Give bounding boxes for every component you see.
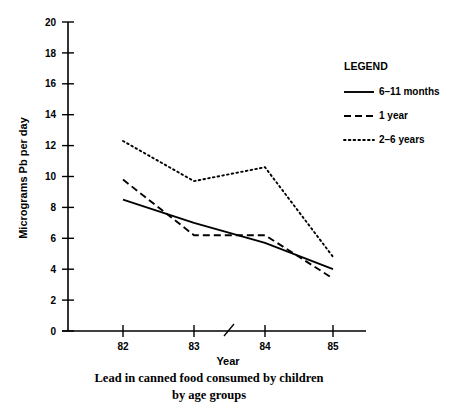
y-tick-label: 0 <box>50 326 56 337</box>
legend-title: LEGEND <box>344 60 388 72</box>
y-axis-tick-labels: 02468101214161820 <box>45 17 57 337</box>
legend-label: 6–11 months <box>379 86 440 97</box>
data-series-group <box>123 141 333 279</box>
y-tick-label: 12 <box>45 140 57 151</box>
x-tick-label: 82 <box>117 341 129 352</box>
series-line-dotted <box>123 141 333 257</box>
chart-legend: LEGEND 6–11 months1 year2–6 years <box>344 60 440 145</box>
x-axis-title: Year <box>216 355 240 367</box>
y-tick-label: 2 <box>50 295 56 306</box>
y-tick-label: 4 <box>50 264 56 275</box>
legend-label: 2–6 years <box>379 134 425 145</box>
x-axis-break-mark <box>224 324 234 336</box>
x-tick-label: 84 <box>259 341 271 352</box>
y-tick-label: 18 <box>45 48 57 59</box>
y-tick-label: 6 <box>50 233 56 244</box>
y-axis-title: Micrograms Pb per day <box>17 116 29 239</box>
figure-caption-line-1: Lead in canned food consumed by children <box>95 371 324 385</box>
x-tick-label: 85 <box>327 341 339 352</box>
y-tick-label: 16 <box>45 78 57 89</box>
y-tick-label: 10 <box>45 171 57 182</box>
x-tick-label: 83 <box>188 341 200 352</box>
y-tick-label: 8 <box>50 202 56 213</box>
legend-label: 1 year <box>379 110 408 121</box>
figure-caption-line-2: by age groups <box>172 388 246 402</box>
chart-figure: 02468101214161820 82838485 Micrograms Pb… <box>0 0 450 411</box>
line-chart-canvas: 02468101214161820 82838485 Micrograms Pb… <box>0 0 450 411</box>
y-tick-label: 20 <box>45 17 57 28</box>
series-line-dashed <box>123 180 333 279</box>
y-tick-label: 14 <box>45 109 57 120</box>
x-axis-tick-labels: 82838485 <box>117 341 339 352</box>
